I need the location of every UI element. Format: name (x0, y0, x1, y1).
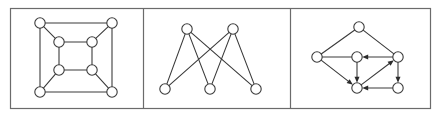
graph-node (87, 37, 97, 47)
graph-node (54, 65, 64, 75)
graph-node (352, 52, 362, 62)
graph-figure (0, 0, 436, 116)
graph-canvas (0, 0, 436, 116)
graph-node (352, 83, 362, 93)
graph-node (312, 52, 322, 62)
graph-node (393, 52, 403, 62)
graph-node (54, 37, 64, 47)
graph-node (182, 24, 192, 34)
graph-node (160, 84, 170, 94)
graph-node (107, 87, 117, 97)
graph-node (35, 87, 45, 97)
graph-node (251, 84, 261, 94)
graph-node (87, 65, 97, 75)
graph-node (205, 84, 215, 94)
graph-node (35, 18, 45, 28)
graph-node (393, 83, 403, 93)
graph-node (228, 24, 238, 34)
graph-node (107, 18, 117, 28)
graph-node (354, 22, 364, 32)
